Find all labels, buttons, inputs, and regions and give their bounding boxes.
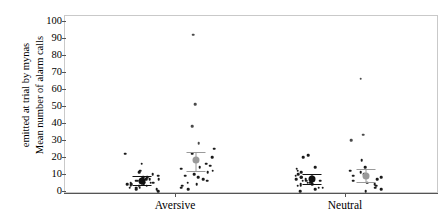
mean-marker: [139, 177, 146, 184]
data-point: [295, 168, 298, 171]
y-axis-tick-mark: [62, 72, 66, 73]
data-point: [191, 125, 194, 128]
y-axis-tick-mark: [62, 21, 66, 22]
x-axis-tick-label: Aversive: [115, 199, 235, 211]
data-point: [207, 171, 210, 174]
y-axis-tick-label: 100: [36, 16, 62, 26]
mean-error-bar: [356, 169, 376, 183]
y-axis-tick-mark: [62, 157, 66, 158]
mean-error-bar: [302, 174, 322, 184]
x-axis-tick-mark: [345, 193, 346, 197]
error-bar-cap-lower: [303, 184, 322, 185]
data-point: [180, 186, 183, 189]
data-point: [352, 174, 355, 177]
y-axis-tick-label: 50: [36, 101, 62, 111]
error-bar-cap-lower: [187, 171, 206, 172]
data-point: [211, 156, 214, 159]
data-point: [209, 164, 212, 167]
y-axis-tick-mark: [62, 55, 66, 56]
x-axis-tick-label: Neutral: [285, 199, 405, 211]
data-point: [138, 171, 141, 174]
data-point: [374, 186, 377, 189]
data-point: [376, 178, 379, 181]
data-point: [297, 173, 300, 176]
y-axis-title-line-2: emitted at trial by mynas: [19, 43, 32, 147]
x-axis-tick-mark: [175, 193, 176, 197]
data-point: [307, 154, 310, 157]
data-point: [135, 188, 138, 191]
plot-area: [64, 15, 438, 193]
y-axis-tick-mark: [62, 89, 66, 90]
data-point: [186, 181, 189, 184]
data-point: [380, 176, 383, 179]
error-bar-cap-upper: [357, 169, 376, 170]
y-axis-tick-mark: [62, 106, 66, 107]
data-point: [180, 168, 183, 171]
data-point: [314, 166, 317, 169]
data-point: [295, 178, 298, 181]
y-axis-tick-label: 0: [36, 186, 62, 196]
y-axis-tick-label: 60: [36, 84, 62, 94]
data-point: [141, 163, 144, 166]
mean-error-bar: [132, 176, 152, 185]
mean-error-bar: [186, 152, 206, 171]
data-point: [362, 134, 365, 137]
y-axis-tick-mark: [62, 191, 66, 192]
y-axis-tick-label: 20: [36, 152, 62, 162]
error-bar-cap-upper: [187, 152, 206, 153]
y-axis-tick-mark: [62, 140, 66, 141]
data-point: [360, 159, 363, 162]
data-point: [352, 180, 355, 183]
y-axis-tick-mark: [62, 174, 66, 175]
y-axis-tick-mark: [62, 38, 66, 39]
data-point: [213, 147, 216, 150]
y-axis-tick-labels: 1009080706050403020100: [32, 0, 62, 222]
error-bar-cap-lower: [357, 182, 376, 183]
mean-marker: [309, 176, 316, 183]
data-point: [198, 142, 201, 145]
data-point: [302, 156, 305, 159]
data-point: [194, 103, 197, 106]
error-bar-cap-lower: [133, 185, 152, 186]
data-point: [364, 190, 367, 193]
x-axis-line: [64, 193, 438, 194]
y-axis-tick-label: 90: [36, 33, 62, 43]
y-axis-tick-label: 80: [36, 50, 62, 60]
data-point: [314, 188, 317, 191]
data-point: [195, 183, 198, 186]
data-point: [202, 178, 205, 181]
y-axis-tick-label: 40: [36, 118, 62, 128]
mean-marker: [363, 172, 370, 179]
data-point: [321, 186, 324, 189]
data-point: [128, 186, 131, 189]
y-axis-tick-mark: [62, 123, 66, 124]
data-point: [158, 178, 161, 181]
y-axis-tick-label: 30: [36, 135, 62, 145]
data-point: [157, 190, 160, 193]
data-point: [206, 180, 209, 183]
mean-marker: [193, 157, 200, 164]
data-point: [126, 183, 129, 186]
data-point: [349, 169, 352, 172]
y-axis-tick-label: 70: [36, 67, 62, 77]
data-point: [187, 188, 190, 191]
data-point: [197, 176, 200, 179]
chart-figure: Mean number of alarm calls emitted at tr…: [0, 0, 447, 222]
data-point: [193, 173, 196, 176]
data-point: [157, 174, 160, 177]
data-point: [350, 139, 353, 142]
data-point: [192, 33, 195, 36]
y-axis-tick-label: 10: [36, 169, 62, 179]
data-point: [317, 186, 320, 189]
data-point: [360, 78, 363, 81]
data-point: [211, 169, 214, 172]
data-point: [184, 174, 187, 177]
data-point: [124, 152, 127, 155]
data-point: [299, 190, 302, 193]
data-point: [380, 188, 383, 191]
